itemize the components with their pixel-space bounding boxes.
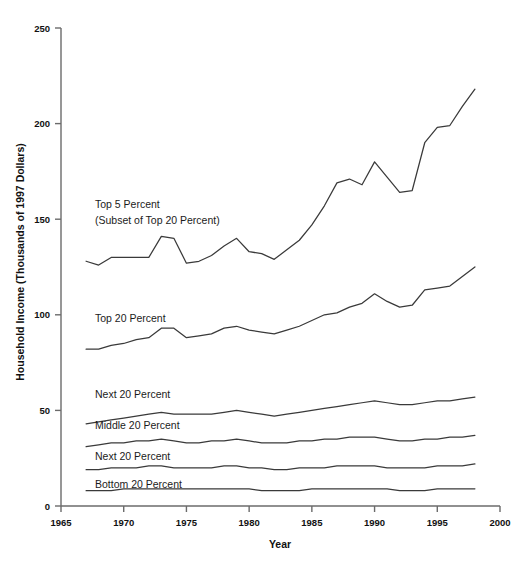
y-tick-label: 200 (34, 118, 50, 129)
x-tick-label: 1965 (50, 517, 72, 528)
y-tick-label: 150 (34, 214, 50, 225)
x-tick-label: 1985 (301, 517, 323, 528)
income-quintiles-line-chart: Household Income (Thousands of 1997 Doll… (0, 0, 526, 566)
series-labels: Top 5 Percent(Subset of Top 20 Percent)T… (95, 198, 220, 490)
series-line (86, 267, 475, 349)
series-label-next20-upper: Next 20 Percent (95, 388, 170, 400)
x-tick-label: 1990 (364, 517, 385, 528)
y-axis-ticks: 050100150200250 (34, 23, 61, 512)
y-tick-label: 0 (45, 501, 50, 512)
x-tick-label: 1980 (239, 517, 260, 528)
series-line (86, 464, 475, 470)
series-label-top5: Top 5 Percent (95, 198, 160, 210)
series-label-top5-sub: (Subset of Top 20 Percent) (95, 214, 220, 226)
series-line (86, 435, 475, 446)
series-label-top20: Top 20 Percent (95, 312, 166, 324)
x-axis-title: Year (269, 538, 291, 550)
chart-container: Household Income (Thousands of 1997 Doll… (0, 0, 526, 566)
x-tick-label: 1975 (176, 517, 198, 528)
series-label-bottom20: Bottom 20 Percent (95, 478, 182, 490)
series-label-next20-lower: Next 20 Percent (95, 450, 170, 462)
x-tick-label: 2000 (489, 517, 510, 528)
y-tick-label: 250 (34, 23, 50, 34)
x-tick-label: 1995 (427, 517, 449, 528)
y-tick-label: 50 (39, 405, 50, 416)
x-axis-ticks: 19651970197519801985199019952000 (50, 506, 510, 528)
y-tick-label: 100 (34, 309, 50, 320)
x-tick-label: 1970 (113, 517, 134, 528)
y-axis-title: Household Income (Thousands of 1997 Doll… (14, 143, 26, 380)
series-line (86, 89, 475, 265)
series-label-middle20: Middle 20 Percent (95, 419, 180, 431)
